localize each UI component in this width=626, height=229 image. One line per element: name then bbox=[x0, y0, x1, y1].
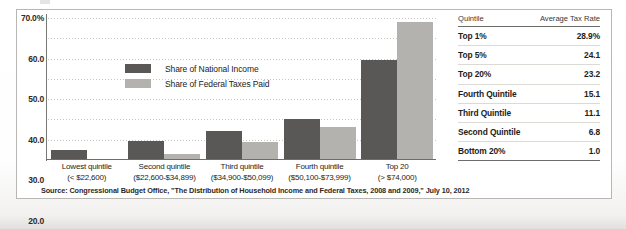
y-axis-tick-label: 20.0 bbox=[28, 216, 44, 226]
bar bbox=[242, 142, 278, 160]
bar-group: 0.3% bbox=[48, 18, 126, 160]
x-axis-category-label: Third quintile($34,900-$50,099) bbox=[203, 162, 281, 183]
y-axis-line bbox=[46, 14, 47, 161]
bar bbox=[284, 119, 320, 160]
table-row: Third Quintile11.1 bbox=[458, 103, 600, 122]
scan-artifact bbox=[40, 0, 50, 4]
table-row: Bottom 20%1.0 bbox=[458, 142, 600, 161]
source-note: Source: Congressional Budget Office, "Th… bbox=[41, 186, 469, 195]
table-row: Top 1%28.9% bbox=[458, 27, 600, 46]
x-axis-category-label: Fourth quintile($50,100-$73,999) bbox=[281, 162, 359, 183]
y-axis-tick-label: 70.0% bbox=[21, 13, 44, 23]
cell-average-tax-rate: 24.1 bbox=[530, 46, 600, 65]
y-axis-tick-label: 30.0 bbox=[28, 175, 44, 185]
x-axis-category-label: Lowest quintile(< $22,600) bbox=[48, 162, 126, 183]
cell-average-tax-rate: 23.2 bbox=[530, 65, 600, 84]
bar bbox=[320, 127, 356, 160]
y-axis-tick-label: 60.0 bbox=[28, 54, 44, 64]
cell-quintile: Second Quintile bbox=[458, 122, 530, 141]
average-tax-rate-table: Quintile Average Tax Rate Top 1%28.9%Top… bbox=[458, 14, 600, 161]
bar-chart: 70.0%60.050.040.030.020.010.00.0 0.3% Sh… bbox=[17, 10, 442, 187]
x-axis-labels: Lowest quintile(< $22,600)Second quintil… bbox=[48, 162, 436, 183]
legend-swatch-icon bbox=[125, 79, 151, 88]
bar bbox=[128, 141, 164, 160]
legend-item-national-income: Share of National Income bbox=[125, 62, 269, 75]
column-header-average-tax-rate: Average Tax Rate bbox=[530, 14, 600, 27]
cell-average-tax-rate: 15.1 bbox=[530, 84, 600, 103]
cell-average-tax-rate: 11.1 bbox=[530, 103, 600, 122]
cell-quintile: Fourth Quintile bbox=[458, 84, 530, 103]
table-row: Top 5%24.1 bbox=[458, 46, 600, 65]
table-row: Second Quintile6.8 bbox=[458, 122, 600, 141]
table-header-row: Quintile Average Tax Rate bbox=[458, 14, 600, 27]
legend-label: Share of Federal Taxes Paid bbox=[165, 79, 269, 89]
table-row: Top 20%23.2 bbox=[458, 65, 600, 84]
column-header-quintile: Quintile bbox=[458, 14, 530, 27]
bar bbox=[397, 22, 433, 160]
cell-average-tax-rate: 28.9% bbox=[530, 27, 600, 46]
cell-quintile: Top 5% bbox=[458, 46, 530, 65]
cell-quintile: Top 1% bbox=[458, 27, 530, 46]
x-axis-category-label: Top 20(> $74,000) bbox=[358, 162, 436, 183]
bar bbox=[361, 60, 397, 160]
x-axis-baseline bbox=[46, 159, 436, 160]
chart-legend: Share of National Income Share of Federa… bbox=[125, 62, 269, 92]
table-row: Fourth Quintile15.1 bbox=[458, 84, 600, 103]
y-axis-tick-label: 40.0 bbox=[28, 135, 44, 145]
bar bbox=[206, 131, 242, 160]
bar-group bbox=[281, 18, 359, 160]
cell-quintile: Bottom 20% bbox=[458, 142, 530, 161]
legend-item-federal-taxes: Share of Federal Taxes Paid bbox=[125, 77, 269, 90]
y-axis-tick-label: 50.0 bbox=[28, 94, 44, 104]
legend-swatch-icon bbox=[125, 64, 151, 73]
legend-label: Share of National Income bbox=[165, 64, 259, 74]
cell-quintile: Third Quintile bbox=[458, 103, 530, 122]
x-axis-category-label: Second quintile($22,600-$34,899) bbox=[126, 162, 204, 183]
cell-quintile: Top 20% bbox=[458, 65, 530, 84]
cell-average-tax-rate: 6.8 bbox=[530, 122, 600, 141]
cell-average-tax-rate: 1.0 bbox=[530, 142, 600, 161]
bar-group bbox=[358, 18, 436, 160]
figure-root: 70.0%60.050.040.030.020.010.00.0 0.3% Sh… bbox=[0, 0, 626, 229]
